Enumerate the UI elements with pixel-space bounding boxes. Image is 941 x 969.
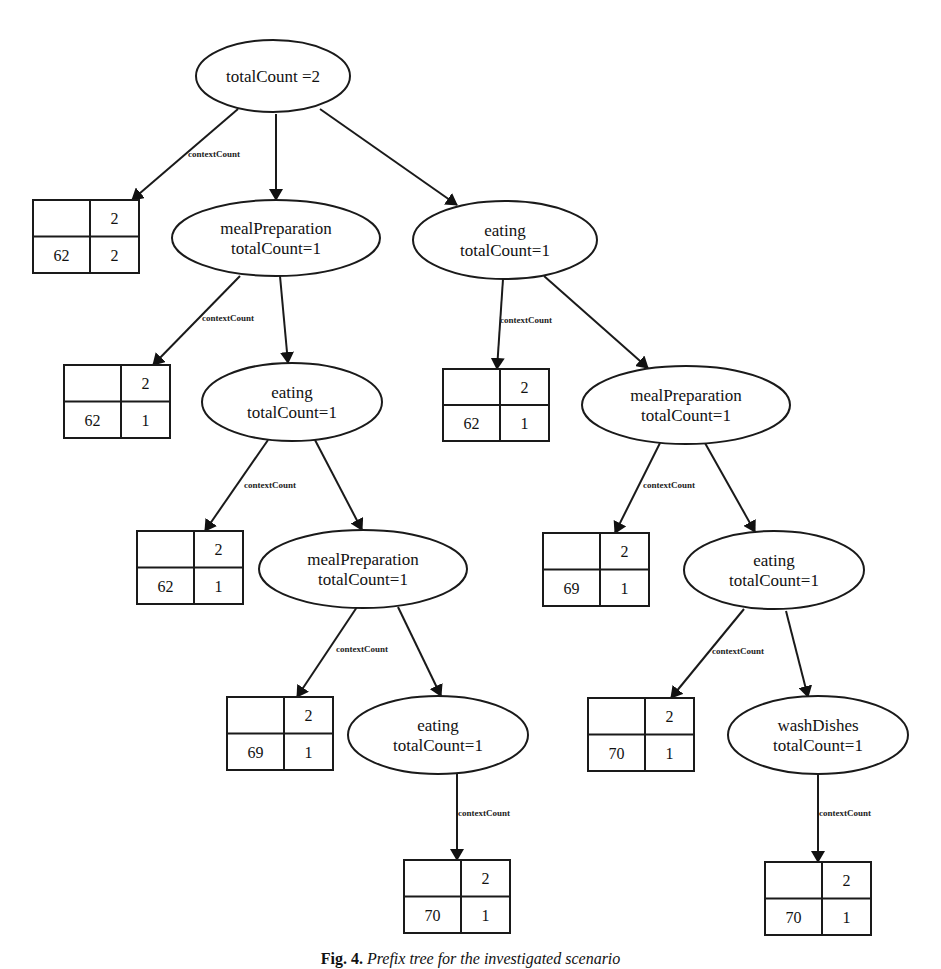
- table-header-value: 2: [521, 379, 529, 396]
- count-table-t_root: 2622: [33, 200, 139, 273]
- edge-label: contextCount: [500, 315, 552, 325]
- node-count-label: totalCount=1: [460, 241, 550, 260]
- table-cell-context: 70: [425, 907, 441, 924]
- figure-caption: Fig. 4. Prefix tree for the investigated…: [0, 950, 941, 968]
- edge-mp3-to-eat4: [398, 607, 441, 696]
- node-count-label: totalCount=1: [641, 406, 731, 425]
- tree-node-mp1: mealPreparationtotalCount=1: [172, 200, 380, 276]
- table-cell-context: 62: [158, 578, 174, 595]
- table-header-value: 2: [621, 543, 629, 560]
- node-count-label: totalCount =2: [226, 67, 320, 86]
- edge-wd-to-t_wd: contextCount: [818, 774, 871, 862]
- edge-mp2-to-t_mp2: contextCount: [615, 443, 695, 533]
- table-header-value: 2: [215, 541, 223, 558]
- node-count-label: totalCount=1: [231, 239, 321, 258]
- table-cell-count: 1: [305, 744, 313, 761]
- edge-mp1-to-eat2: [280, 276, 288, 363]
- tree-node-eat1: eatingtotalCount=1: [413, 201, 597, 279]
- edge-label: contextCount: [643, 480, 695, 490]
- node-activity-label: eating: [753, 551, 795, 570]
- node-ellipse: [172, 200, 380, 276]
- edge-arrow: [315, 440, 362, 530]
- count-table-t_mp2: 2691: [543, 533, 649, 606]
- edge-arrow: [544, 276, 648, 368]
- node-ellipse: [202, 363, 382, 441]
- node-ellipse: [259, 530, 467, 608]
- edge-label: contextCount: [244, 480, 296, 490]
- edge-eat4-to-t_eat4: contextCount: [457, 774, 510, 860]
- node-count-label: totalCount=1: [773, 736, 863, 755]
- node-count-label: totalCount=1: [247, 403, 337, 422]
- table-cell-context: 62: [54, 247, 70, 264]
- edge-arrow: [320, 109, 457, 205]
- edge-eat2-to-t_eat2: contextCount: [205, 440, 296, 531]
- table-header-value: 2: [843, 872, 851, 889]
- node-activity-label: mealPreparation: [307, 550, 419, 569]
- edge-label: contextCount: [819, 808, 871, 818]
- table-cell-context: 62: [464, 415, 480, 432]
- tree-node-mp3: mealPreparationtotalCount=1: [259, 530, 467, 608]
- node-ellipse: [413, 201, 597, 279]
- edge-eat2-to-mp3: [315, 440, 362, 530]
- table-header-value: 2: [142, 375, 150, 392]
- caption-label: Fig. 4.: [321, 950, 363, 967]
- count-table-t_wd: 2701: [765, 862, 871, 935]
- table-cell-context: 69: [564, 580, 580, 597]
- count-table-t_eat3: 2701: [588, 698, 694, 771]
- edge-mp2-to-eat3: [705, 443, 755, 532]
- table-header-value: 2: [666, 708, 674, 725]
- edge-mp3-to-t_mp3: contextCount: [297, 607, 388, 697]
- edge-label: contextCount: [188, 149, 240, 159]
- edge-eat1-to-t_eat1: contextCount: [497, 279, 552, 369]
- table-cell-count: 2: [111, 247, 119, 264]
- node-activity-label: mealPreparation: [220, 219, 332, 238]
- table-cell-context: 62: [85, 412, 101, 429]
- tree-node-eat3: eatingtotalCount=1: [684, 531, 864, 609]
- node-activity-label: mealPreparation: [630, 386, 742, 405]
- node-activity-label: eating: [271, 383, 313, 402]
- count-table-t_mp1: 2621: [64, 365, 170, 438]
- tree-node-root: totalCount =2: [196, 40, 350, 112]
- table-cell-count: 1: [621, 580, 629, 597]
- edge-arrow: [280, 276, 288, 363]
- edge-arrow: [786, 611, 808, 697]
- edge-label: contextCount: [336, 644, 388, 654]
- edge-label: contextCount: [712, 646, 764, 656]
- count-table-t_eat4: 2701: [404, 860, 510, 933]
- table-header-value: 2: [111, 210, 119, 227]
- edge-eat3-to-t_eat3: contextCount: [671, 609, 764, 698]
- node-ellipse: [348, 696, 528, 774]
- table-cell-count: 1: [482, 907, 490, 924]
- table-header-value: 2: [482, 870, 490, 887]
- node-ellipse: [582, 366, 790, 444]
- table-cell-count: 1: [142, 412, 150, 429]
- table-header-value: 2: [305, 707, 313, 724]
- table-cell-count: 1: [843, 909, 851, 926]
- node-activity-label: washDishes: [777, 716, 858, 735]
- edge-eat1-to-mp2: [544, 276, 648, 368]
- node-count-label: totalCount=1: [729, 571, 819, 590]
- node-activity-label: eating: [484, 221, 526, 240]
- table-cell-count: 1: [215, 578, 223, 595]
- table-cell-count: 1: [666, 745, 674, 762]
- count-table-t_eat1: 2621: [443, 369, 549, 441]
- edge-root-to-t_root: contextCount: [132, 109, 240, 200]
- node-ellipse: [728, 696, 908, 774]
- tree-node-eat2: eatingtotalCount=1: [202, 363, 382, 441]
- node-ellipse: [684, 531, 864, 609]
- node-count-label: totalCount=1: [318, 570, 408, 589]
- table-cell-context: 70: [609, 745, 625, 762]
- edge-mp1-to-t_mp1: contextCount: [153, 276, 254, 365]
- caption-text: Prefix tree for the investigated scenari…: [367, 950, 620, 967]
- edge-arrow: [398, 607, 441, 696]
- edge-arrow: [705, 443, 755, 532]
- tree-node-wd: washDishestotalCount=1: [728, 696, 908, 774]
- edge-label: contextCount: [458, 808, 510, 818]
- table-cell-count: 1: [521, 415, 529, 432]
- tree-node-mp2: mealPreparationtotalCount=1: [582, 366, 790, 444]
- count-table-t_mp3: 2691: [227, 697, 333, 770]
- edge-root-to-eat1: [320, 109, 457, 205]
- edge-eat3-to-wd: [786, 611, 808, 697]
- tree-node-eat4: eatingtotalCount=1: [348, 696, 528, 774]
- count-table-t_eat2: 2621: [137, 531, 243, 604]
